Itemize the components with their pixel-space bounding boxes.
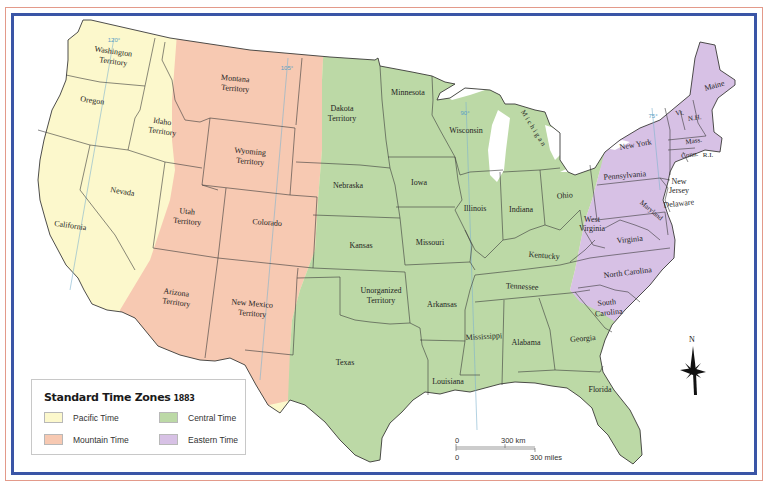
legend-label-pacific: Pacific Time: [73, 413, 119, 423]
label-florida: Florida: [588, 385, 612, 394]
label-delaware: Delaware: [663, 197, 695, 209]
compass-rose: N: [680, 335, 706, 395]
meridian-120-label: 120°: [108, 37, 121, 43]
legend-label-mountain: Mountain Time: [73, 435, 129, 445]
legend-item-central: Central Time: [159, 412, 236, 423]
label-unorganized: Unorganized: [360, 286, 401, 295]
label-wisconsin: Wisconsin: [449, 126, 482, 135]
central-swatch: [159, 412, 178, 423]
label-new-jersey-2: Jersey: [669, 186, 689, 195]
label-missouri: Missouri: [416, 238, 445, 247]
scale-bar: 0 300 km 0 300 miles: [455, 436, 562, 462]
legend-title-text: Standard Time Zones: [44, 391, 171, 404]
label-texas: Texas: [336, 358, 355, 367]
mountain-swatch: [44, 434, 63, 445]
label-rhode-island: R.I.: [703, 151, 714, 159]
label-dakota-territory: Territory: [328, 114, 356, 123]
label-indiana: Indiana: [509, 205, 533, 214]
label-utah: Utah: [179, 206, 195, 216]
legend-item-mountain: Mountain Time: [44, 434, 129, 445]
label-arkansas: Arkansas: [427, 300, 457, 309]
scale-mi-label: 300 miles: [530, 453, 562, 462]
label-alabama: Alabama: [512, 338, 541, 347]
compass-north-label: N: [689, 335, 695, 344]
label-west-virginia: West: [584, 215, 601, 224]
pacific-swatch: [44, 412, 63, 423]
label-new-jersey: New: [671, 177, 686, 186]
legend-year: 1883: [174, 394, 195, 403]
legend-item-pacific: Pacific Time: [44, 412, 119, 423]
legend: Standard Time Zones1883 Pacific Time Mou…: [31, 379, 246, 455]
scale-km-label: 300 km: [501, 436, 526, 445]
label-tennessee: Tennessee: [506, 281, 540, 292]
label-nebraska: Nebraska: [333, 181, 364, 190]
label-kansas: Kansas: [349, 241, 372, 250]
label-georgia: Georgia: [570, 333, 597, 344]
legend-item-eastern: Eastern Time: [159, 434, 238, 445]
label-dakota: Dakota: [330, 104, 354, 113]
label-illinois: Illinois: [464, 204, 487, 213]
meridian-75-label: 75°: [648, 113, 658, 119]
meridian-105-label: 105°: [281, 65, 294, 71]
legend-title: Standard Time Zones1883: [44, 391, 195, 404]
label-iowa: Iowa: [411, 178, 427, 187]
label-west-virginia-2: Virginia: [579, 224, 605, 233]
scale-zero-km: 0: [455, 436, 459, 445]
label-unorganized-territory: Territory: [367, 296, 395, 305]
map-stage: 120° 105° 90° 75°: [0, 0, 770, 487]
label-louisiana: Louisiana: [432, 377, 464, 386]
label-connecticut: Conn.: [681, 150, 699, 160]
eastern-swatch: [159, 434, 178, 445]
meridian-90-label: 90°: [460, 110, 470, 116]
label-minnesota: Minnesota: [391, 88, 425, 97]
scale-zero-mi: 0: [455, 453, 459, 462]
label-vermont: Vt.: [675, 108, 685, 117]
label-ohio: Ohio: [556, 190, 573, 200]
legend-label-eastern: Eastern Time: [188, 435, 238, 445]
legend-label-central: Central Time: [188, 413, 236, 423]
